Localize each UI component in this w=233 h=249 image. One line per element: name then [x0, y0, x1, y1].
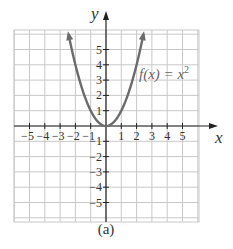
x-axis-label: x: [214, 128, 223, 147]
svg-text:−4: −4: [89, 180, 102, 194]
svg-text:5: 5: [180, 129, 186, 143]
y-axis-label: y: [89, 4, 99, 23]
svg-text:3: 3: [149, 129, 155, 143]
svg-text:5: 5: [96, 43, 102, 57]
svg-text:−4: −4: [36, 129, 49, 143]
svg-text:2: 2: [96, 88, 102, 102]
svg-text:−5: −5: [21, 129, 34, 143]
svg-text:3: 3: [96, 73, 102, 87]
svg-text:−2: −2: [89, 150, 102, 164]
svg-text:1: 1: [118, 129, 124, 143]
chart-figure: −5−4−3−2−112345−5−4−3−2−112345 x y f(x) …: [0, 0, 233, 249]
svg-text:−3: −3: [52, 129, 65, 143]
svg-text:−2: −2: [67, 129, 80, 143]
svg-text:4: 4: [96, 58, 102, 72]
svg-text:−1: −1: [89, 134, 102, 148]
figure-caption: (a): [0, 221, 212, 238]
svg-text:−3: −3: [89, 165, 102, 179]
svg-text:1: 1: [96, 104, 102, 118]
svg-text:−5: −5: [89, 196, 102, 210]
function-label: f(x) = x2: [139, 64, 189, 83]
svg-text:2: 2: [134, 129, 140, 143]
svg-text:4: 4: [164, 129, 170, 143]
